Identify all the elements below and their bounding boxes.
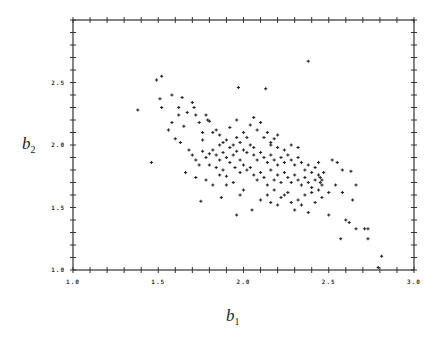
data-point: [235, 136, 238, 139]
data-point: [245, 168, 248, 171]
data-point: [252, 146, 255, 149]
data-point: [191, 101, 194, 104]
data-point: [228, 126, 231, 129]
data-point: [232, 153, 235, 156]
data-point: [256, 158, 259, 161]
data-point: [187, 148, 190, 151]
data-point: [319, 176, 322, 179]
data-point: [225, 175, 228, 178]
data-point: [170, 121, 173, 124]
axis-tick-labels: 1.01.52.02.53.01.01.52.02.5: [51, 79, 421, 286]
data-point: [208, 163, 211, 166]
data-point: [262, 156, 265, 159]
data-point: [331, 158, 334, 161]
scatter-plot: 1.01.52.02.53.01.01.52.02.5: [0, 0, 440, 347]
data-point: [341, 168, 344, 171]
data-point: [208, 152, 211, 155]
data-point: [242, 188, 245, 191]
data-point: [235, 150, 238, 153]
data-point: [296, 156, 299, 159]
data-point: [250, 208, 253, 211]
data-point: [238, 171, 241, 174]
data-point: [320, 178, 323, 181]
data-point: [286, 176, 289, 179]
data-point: [339, 237, 342, 240]
data-point: [242, 131, 245, 134]
data-point: [259, 121, 262, 124]
data-point: [296, 198, 299, 201]
data-point: [310, 191, 313, 194]
data-point: [259, 198, 262, 201]
data-point: [327, 191, 330, 194]
data-point: [349, 170, 352, 173]
data-point: [334, 183, 337, 186]
data-point: [215, 153, 218, 156]
data-point: [286, 191, 289, 194]
data-point: [307, 211, 310, 214]
data-point: [327, 213, 330, 216]
y-tick-label: 2.0: [51, 141, 65, 148]
data-point: [181, 96, 184, 99]
data-point: [259, 171, 262, 174]
data-point: [293, 173, 296, 176]
data-point: [186, 111, 189, 114]
data-point: [303, 168, 306, 171]
data-point: [303, 176, 306, 179]
data-point: [266, 161, 269, 164]
data-point: [228, 146, 231, 149]
data-point: [377, 266, 380, 269]
data-point: [266, 183, 269, 186]
data-point: [204, 178, 207, 181]
data-point: [319, 181, 322, 184]
data-point: [290, 201, 293, 204]
x-tick-label: 1.5: [151, 278, 165, 285]
data-point: [354, 227, 357, 230]
data-point: [232, 181, 235, 184]
data-point: [215, 128, 218, 131]
data-point: [252, 153, 255, 156]
data-point: [314, 201, 317, 204]
data-point: [198, 121, 201, 124]
data-point: [198, 163, 201, 166]
data-point: [310, 171, 313, 174]
data-point: [264, 87, 267, 90]
data-point: [237, 86, 240, 89]
data-point: [218, 158, 221, 161]
data-point: [307, 163, 310, 166]
data-point: [249, 166, 252, 169]
y-axis-title-subscript: 2: [31, 144, 36, 155]
data-point: [317, 161, 320, 164]
data-point: [218, 133, 221, 136]
data-point: [354, 183, 357, 186]
data-point: [341, 191, 344, 194]
data-point: [300, 161, 303, 164]
data-point: [218, 173, 221, 176]
data-point: [201, 150, 204, 153]
y-axis-title: b2: [22, 134, 36, 155]
data-point: [266, 131, 269, 134]
data-point: [344, 218, 347, 221]
data-point: [269, 143, 272, 146]
data-point: [245, 151, 248, 154]
data-point: [273, 158, 276, 161]
data-points: [136, 60, 383, 269]
data-point: [170, 93, 173, 96]
data-point: [279, 156, 282, 159]
data-point: [290, 158, 293, 161]
data-point: [348, 221, 351, 224]
data-point: [218, 143, 221, 146]
data-point: [167, 128, 170, 131]
data-point: [293, 163, 296, 166]
x-axis-title: b1: [226, 306, 240, 327]
data-point: [245, 136, 248, 139]
data-point: [363, 227, 366, 230]
data-point: [366, 227, 369, 230]
data-point: [238, 141, 241, 144]
data-point: [204, 113, 207, 116]
data-point: [307, 60, 310, 63]
data-point: [283, 148, 286, 151]
data-point: [317, 188, 320, 191]
data-point: [182, 125, 185, 128]
data-point: [283, 193, 286, 196]
data-point: [238, 193, 241, 196]
